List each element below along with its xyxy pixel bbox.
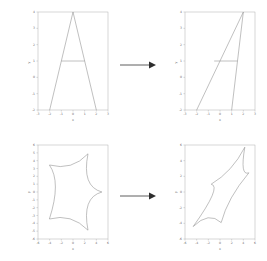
y-tick-label: 6	[180, 143, 182, 147]
y-tick-label: 0	[180, 75, 182, 79]
plot-sheared-letter-a: -2 -1 0 1 2 3 4	[161, 5, 263, 125]
x-axis-title: x	[72, 118, 74, 122]
transformation-figure: -2 -1 0 1 2 3 4	[0, 0, 267, 261]
x-tick-label: -6	[183, 241, 186, 245]
x-axis-ticks	[185, 239, 255, 241]
y-axis-tick-labels: -2 -1 0 1 2 3 4	[179, 10, 182, 112]
x-tick-label: -6	[36, 241, 39, 245]
plot-sheared-star: -6 -4 -2 0 2 4 6	[161, 136, 263, 256]
y-tick-label: -5	[32, 229, 35, 233]
x-axis-title: x	[219, 118, 221, 122]
y-tick-label: 0	[33, 190, 35, 194]
y-tick-label: 2	[33, 43, 35, 47]
y-tick-label: 1	[33, 59, 35, 63]
y-axis-tick-labels: -6 -4 -2 0 2 4 6	[179, 143, 182, 241]
x-axis-ticks	[185, 110, 255, 112]
y-tick-label: -4	[32, 221, 35, 225]
y-axis-title: y	[27, 191, 31, 193]
x-tick-label: -4	[195, 241, 198, 245]
y-tick-label: 2	[180, 174, 182, 178]
y-tick-label: -4	[179, 221, 182, 225]
y-tick-label: 3	[180, 26, 182, 30]
x-tick-label: 2	[242, 112, 244, 116]
x-tick-label: 1	[84, 112, 86, 116]
x-axis-ticks	[38, 110, 108, 112]
y-axis-ticks	[183, 145, 185, 239]
y-tick-label: -6	[32, 237, 35, 241]
y-tick-label: 4	[33, 10, 35, 14]
y-tick-label: -2	[179, 206, 182, 210]
x-axis-tick-labels: -3 -2 -1 0 1 2 3	[183, 112, 256, 116]
x-axis-ticks	[38, 239, 108, 241]
x-tick-label: -2	[207, 241, 210, 245]
y-axis-ticks	[36, 12, 38, 110]
x-tick-label: -4	[48, 241, 51, 245]
x-tick-label: 2	[84, 241, 86, 245]
x-tick-label: 4	[95, 241, 97, 245]
x-axis-tick-labels: -6 -4 -2 0 2 4 6	[36, 241, 109, 245]
y-axis-tick-labels: -2 -1 0 1 2 3 4	[32, 10, 35, 112]
x-tick-label: 0	[219, 241, 221, 245]
arrow-right-icon	[120, 61, 156, 68]
x-axis-tick-labels: -6 -4 -2 0 2 4 6	[183, 241, 256, 245]
x-tick-label: 0	[219, 112, 221, 116]
x-axis-title: x	[72, 247, 74, 251]
x-tick-label: -1	[207, 112, 210, 116]
x-tick-label: 2	[231, 241, 233, 245]
y-tick-label: 6	[33, 143, 35, 147]
y-tick-label: -3	[32, 214, 35, 218]
y-axis-title: y	[27, 61, 31, 63]
y-tick-label: 0	[33, 75, 35, 79]
x-tick-label: -2	[60, 241, 63, 245]
y-axis-ticks	[36, 145, 38, 239]
plot-frame	[185, 145, 255, 239]
y-tick-label: 5	[33, 151, 35, 155]
plot-frame	[38, 145, 108, 239]
x-tick-label: -1	[60, 112, 63, 116]
y-tick-label: -6	[179, 237, 182, 241]
x-tick-label: 4	[242, 241, 244, 245]
x-tick-label: 1	[231, 112, 233, 116]
y-tick-label: -1	[179, 92, 182, 96]
x-tick-label: 3	[107, 112, 109, 116]
x-axis-tick-labels: -3 -2 -1 0 1 2 3	[36, 112, 109, 116]
x-tick-label: 0	[72, 241, 74, 245]
figure-row-top: -2 -1 0 1 2 3 4	[0, 0, 267, 130]
y-tick-label: -2	[32, 108, 35, 112]
x-tick-label: 6	[254, 241, 256, 245]
y-tick-label: -1	[32, 92, 35, 96]
x-tick-label: 6	[107, 241, 109, 245]
y-tick-label: 4	[180, 10, 182, 14]
x-tick-label: -3	[183, 112, 186, 116]
plot-original-letter-a: -2 -1 0 1 2 3 4	[14, 5, 116, 125]
x-axis-title: x	[219, 247, 221, 251]
y-axis-title: y	[174, 191, 178, 193]
y-tick-label: 2	[180, 43, 182, 47]
y-axis-title: y	[174, 61, 178, 63]
y-tick-label: 1	[33, 182, 35, 186]
y-tick-label: 4	[33, 159, 35, 163]
y-tick-label: 1	[180, 59, 182, 63]
x-tick-label: -2	[195, 112, 198, 116]
x-tick-label: 0	[72, 112, 74, 116]
y-tick-label: -1	[32, 198, 35, 202]
x-tick-label: 3	[254, 112, 256, 116]
y-tick-label: 3	[33, 26, 35, 30]
y-tick-label: 2	[33, 174, 35, 178]
arrow-right-icon	[120, 192, 156, 199]
y-axis-ticks	[183, 12, 185, 110]
y-tick-label: 0	[180, 190, 182, 194]
plot-original-star: -6 -5 -4 -3 -2 -1 0 1 2 3 4 5 6	[14, 136, 116, 256]
y-tick-label: 4	[180, 159, 182, 163]
y-tick-label: -2	[179, 108, 182, 112]
y-tick-label: 3	[33, 167, 35, 171]
figure-row-bottom: -6 -5 -4 -3 -2 -1 0 1 2 3 4 5 6	[0, 131, 267, 261]
y-tick-label: -2	[32, 206, 35, 210]
x-tick-label: 2	[95, 112, 97, 116]
x-tick-label: -2	[48, 112, 51, 116]
transform-arrow-top-cell	[116, 50, 161, 80]
transform-arrow-bottom-cell	[116, 181, 161, 211]
x-tick-label: -3	[36, 112, 39, 116]
y-axis-tick-labels: -6 -5 -4 -3 -2 -1 0 1 2 3 4 5 6	[32, 143, 35, 241]
